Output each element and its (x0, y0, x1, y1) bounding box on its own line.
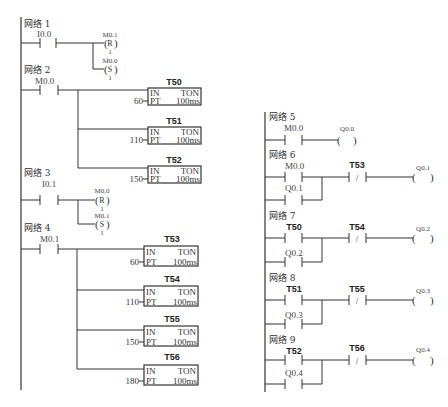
coil-q0-0[interactable]: Q0.0 ( ) (337, 125, 357, 147)
contact-t51[interactable] (265, 295, 302, 305)
svg-text:T52: T52 (166, 155, 182, 165)
svg-text:M0.0: M0.0 (285, 161, 305, 171)
svg-text:): ) (114, 63, 118, 76)
svg-text:IN: IN (146, 327, 156, 337)
svg-text:/: / (356, 173, 359, 183)
svg-text:T55: T55 (164, 314, 180, 324)
network-2: 网络 2 M0.0 T50 IN TON PT 100ms 60 T51 IN … (21, 64, 201, 184)
contact-q0-2-latch[interactable] (265, 257, 302, 267)
svg-text:100ms: 100ms (173, 297, 198, 307)
svg-text:TON: TON (178, 327, 197, 337)
contact-i0-1[interactable] (21, 195, 58, 205)
timer-t51[interactable]: T51 IN TON PT 100ms 110 (130, 116, 201, 145)
coil-q0-4[interactable]: Q0.4 ( ) (412, 346, 434, 367)
network-5-label: 网络 5 (269, 111, 296, 122)
svg-text:): ) (106, 218, 110, 231)
svg-text:Q0.2: Q0.2 (416, 225, 430, 233)
svg-text:/: / (356, 356, 359, 366)
svg-text:T56: T56 (349, 343, 365, 353)
svg-text:T52: T52 (286, 346, 302, 356)
svg-text:Q0.4: Q0.4 (416, 346, 430, 354)
contact-t52[interactable] (265, 355, 302, 365)
contact-m0-1[interactable] (21, 244, 58, 254)
svg-text:): ) (430, 232, 434, 245)
contact-q0-1-latch[interactable] (265, 195, 302, 205)
contact-q0-4-latch[interactable] (265, 379, 302, 389)
svg-text:Q0.3: Q0.3 (285, 310, 303, 320)
network-6-label: 网络 6 (269, 149, 296, 160)
svg-text:T54: T54 (164, 274, 180, 284)
svg-text:T53: T53 (349, 160, 365, 170)
svg-text:1: 1 (108, 48, 112, 56)
svg-text:PT: PT (146, 376, 157, 386)
svg-text:PT: PT (146, 297, 157, 307)
svg-text:(: ( (412, 171, 416, 184)
svg-text:Q0.1: Q0.1 (416, 164, 430, 172)
svg-text:T53: T53 (164, 234, 180, 244)
svg-text:R: R (107, 39, 113, 48)
svg-text:R: R (99, 196, 105, 205)
svg-text:T54: T54 (349, 222, 365, 232)
contact-m0-0-n5[interactable] (265, 135, 302, 145)
svg-text:): ) (353, 134, 357, 147)
network-7: 网络 7 T50 Q0.2 T54 / Q0.2 ( ) (265, 210, 434, 267)
nc-contact-t53[interactable]: / (349, 172, 366, 183)
svg-text:100ms: 100ms (176, 135, 201, 145)
contact-m0-0[interactable] (21, 85, 58, 95)
svg-text:1: 1 (100, 229, 104, 237)
contact-q0-3-latch[interactable] (265, 319, 302, 329)
svg-text:110: 110 (130, 135, 144, 145)
svg-text:1: 1 (108, 74, 112, 82)
svg-text:PT: PT (150, 174, 161, 184)
svg-text:(: ( (337, 134, 341, 147)
nc-contact-t55[interactable]: / (349, 295, 366, 306)
svg-text:100ms: 100ms (176, 174, 201, 184)
network-2-label: 网络 2 (24, 64, 51, 75)
network-7-label: 网络 7 (269, 210, 296, 221)
svg-text:): ) (106, 194, 110, 207)
svg-text:100ms: 100ms (173, 257, 198, 267)
svg-text:IN: IN (146, 247, 156, 257)
reset-coil-m0-1[interactable]: M0.1 ( R ) 1 (103, 31, 118, 56)
svg-text:): ) (430, 171, 434, 184)
contact-i0-0[interactable] (21, 38, 56, 48)
ladder-diagram: 网络 1 I0.0 M0.1 ( R ) 1 M0.0 ( S ) 1 网络 2… (0, 0, 448, 407)
network-4-label: 网络 4 (24, 222, 51, 233)
svg-text:150: 150 (126, 337, 140, 347)
svg-text:(: ( (412, 354, 416, 367)
nc-contact-t54[interactable]: / (349, 233, 366, 244)
network-3-label: 网络 3 (24, 167, 51, 178)
network-9: 网络 9 T52 Q0.4 T56 / Q0.4 ( ) (265, 334, 434, 389)
svg-text:TON: TON (178, 287, 197, 297)
timer-t50[interactable]: T50 IN TON PT 100ms 60 (134, 77, 201, 106)
svg-text:PT: PT (146, 337, 157, 347)
contact-t50[interactable] (265, 233, 302, 243)
network-1-label: 网络 1 (24, 18, 51, 29)
svg-text:Q0.0: Q0.0 (340, 125, 354, 133)
svg-text:(: ( (412, 232, 416, 245)
svg-text:S: S (108, 65, 112, 74)
coil-q0-1[interactable]: Q0.1 ( ) (412, 164, 434, 184)
svg-text:T50: T50 (166, 77, 182, 87)
timer-t53[interactable]: T53 IN TON PT 100ms 60 (130, 234, 198, 267)
coil-q0-3[interactable]: Q0.3 ( ) (412, 287, 434, 307)
contact-m0-0-label: M0.0 (35, 76, 55, 86)
coil-q0-2[interactable]: Q0.2 ( ) (412, 225, 434, 245)
network-6: 网络 6 M0.0 Q0.1 T53 / Q0.1 ( ) (265, 149, 434, 205)
svg-text:T56: T56 (164, 352, 180, 362)
svg-text:T55: T55 (349, 284, 365, 294)
svg-text:60: 60 (130, 257, 140, 267)
svg-text:T51: T51 (286, 284, 302, 294)
svg-text:100ms: 100ms (173, 337, 198, 347)
reset-coil-m0-0[interactable]: M0.0 ( R ) 1 (95, 187, 110, 213)
timer-t52[interactable]: T52 IN TON PT 100ms 150 (130, 155, 202, 184)
svg-text:/: / (356, 234, 359, 244)
network-5: 网络 5 M0.0 Q0.0 ( ) (265, 111, 357, 147)
nc-contact-t56[interactable]: / (349, 355, 366, 366)
contact-i0-1-label: I0.1 (42, 179, 56, 189)
contact-m0-0-n6[interactable] (265, 172, 302, 182)
set-coil-m0-0[interactable]: M0.0 ( S ) 1 (103, 57, 118, 82)
svg-text:100ms: 100ms (176, 96, 201, 106)
svg-text:T50: T50 (286, 222, 302, 232)
set-coil-m0-1[interactable]: M0.1 ( S ) 1 (95, 212, 110, 237)
